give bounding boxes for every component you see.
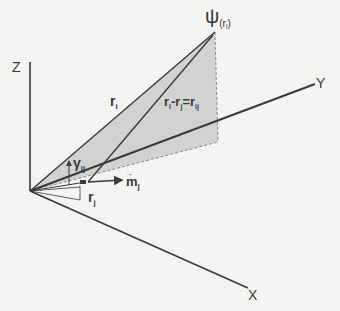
- psi-label: ψ(ri): [205, 5, 231, 30]
- r-j-tip-marker: [80, 180, 86, 184]
- m-j-label: mj: [126, 174, 140, 191]
- x-axis: [30, 191, 248, 288]
- r-j-label: rj: [88, 189, 96, 207]
- diagram-svg: Z Y X ψ(ri) ri ri-rj=rij γij → mj rj: [0, 0, 340, 311]
- x-axis-label: X: [248, 287, 258, 303]
- z-axis-label: Z: [12, 59, 21, 75]
- vector-diagram: Z Y X ψ(ri) ri ri-rj=rij γij → mj rj: [0, 0, 340, 311]
- y-axis-label: Y: [316, 75, 326, 91]
- r-i-label: ri: [110, 93, 118, 111]
- m-j-arrow: [88, 180, 122, 182]
- projection-line-b: [30, 191, 80, 200]
